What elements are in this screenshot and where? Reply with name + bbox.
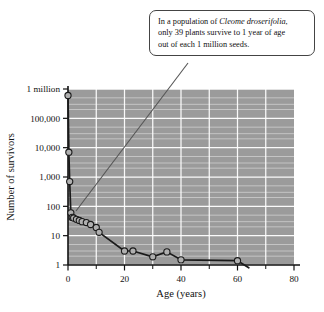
- survivorship-figure: In a population of Cleome droserifolia, …: [0, 0, 324, 312]
- x-tick-label: 20: [120, 274, 130, 284]
- y-tick-label: 1,000: [39, 172, 60, 182]
- species-trailing: ,: [286, 17, 288, 26]
- y-tick-label: 100: [46, 202, 60, 212]
- y-tick-label: 10: [51, 231, 61, 241]
- species-name: Cleome droserifolia: [219, 17, 285, 26]
- x-tick-label: 40: [176, 274, 186, 284]
- x-axis-ticks: [68, 265, 294, 271]
- x-tick-label: 60: [233, 274, 243, 284]
- x-tick-label: 0: [66, 274, 71, 284]
- data-point-marker: [178, 257, 184, 263]
- y-tick-label: 10,000: [35, 143, 61, 153]
- y-axis-title: Number of survivors: [5, 133, 16, 221]
- y-tick-label: 100,000: [30, 114, 60, 124]
- y-tick-label: 1 million: [27, 84, 61, 94]
- data-point-marker: [150, 254, 156, 260]
- y-axis-tick-labels: 1101001,00010,000100,0001 million: [27, 84, 61, 270]
- data-point-marker: [234, 258, 240, 264]
- data-point-marker: [96, 229, 102, 235]
- data-point-marker: [67, 178, 73, 184]
- data-point-marker: [121, 248, 127, 254]
- callout-line-1: In a population of Cleome droserifolia,: [158, 16, 307, 27]
- x-axis-title: Age (years): [156, 288, 206, 300]
- data-point-marker: [130, 248, 136, 254]
- callout-line-2: only 39 plants survive to 1 year of age: [158, 27, 307, 38]
- data-point-marker: [65, 92, 71, 98]
- data-point-marker: [164, 249, 170, 255]
- callout-line-3: out of each 1 million seeds.: [158, 39, 307, 50]
- data-point-marker: [66, 149, 72, 155]
- callout-annotation: In a population of Cleome droserifolia, …: [149, 10, 315, 56]
- callout-text-1: In a population of: [158, 17, 219, 26]
- x-tick-label: 80: [289, 274, 299, 284]
- y-tick-label: 1: [55, 260, 60, 270]
- x-axis-tick-labels: 020406080: [66, 274, 299, 284]
